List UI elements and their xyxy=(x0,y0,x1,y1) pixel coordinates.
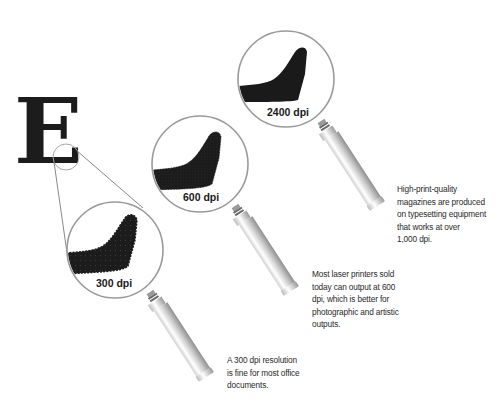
magnifier-handle-600 xyxy=(227,201,298,297)
caption-line: documents. xyxy=(227,379,300,392)
dpi-magnifier-diagram: E xyxy=(0,0,502,405)
caption-line: Most laser printers sold xyxy=(312,268,399,281)
dpi-label-300: 300 dpi xyxy=(96,277,132,289)
caption-line: High-print-quality xyxy=(397,183,486,196)
dpi-label-2400: 2400 dpi xyxy=(267,106,309,118)
caption-line: photographic and artistic xyxy=(312,306,399,319)
magnifier-lens-600: 600 dpi xyxy=(152,116,248,212)
caption-line: today can output at 600 xyxy=(312,281,399,294)
caption-line: on typesetting equipment xyxy=(397,208,486,221)
caption-2400dpi: High-print-quality magazines are produce… xyxy=(397,183,486,246)
caption-line: dpi, which is better for xyxy=(312,293,399,306)
caption-line: A 300 dpi resolution xyxy=(227,354,300,367)
caption-600dpi: Most laser printers sold today can outpu… xyxy=(312,268,399,331)
caption-line: magazines are produced xyxy=(397,196,486,209)
caption-line: is fine for most office xyxy=(227,367,300,380)
connector-line-right xyxy=(76,150,143,208)
caption-line: outputs. xyxy=(312,318,399,331)
caption-line: 1,000 dpi. xyxy=(397,233,486,246)
magnifier-handle-2400 xyxy=(313,116,384,212)
caption-line: that works at over xyxy=(397,221,486,234)
magnifier-lens-2400: 2400 dpi xyxy=(238,31,334,127)
dpi-label-600: 600 dpi xyxy=(183,191,219,203)
magnifier-lens-300: 300 dpi xyxy=(66,202,163,298)
caption-300dpi: A 300 dpi resolution is fine for most of… xyxy=(227,354,300,392)
magnifier-handle-300 xyxy=(142,287,213,383)
